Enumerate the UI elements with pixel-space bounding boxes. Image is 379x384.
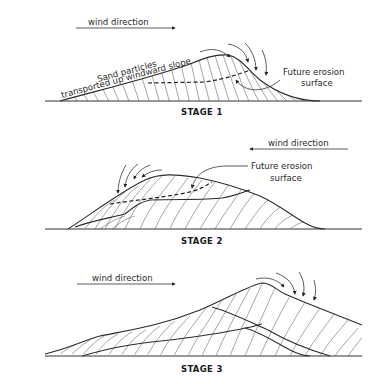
stage-3-cross-bedding	[58, 284, 362, 356]
dune-stages-diagram: wind direction Sand particles transporte…	[0, 0, 379, 384]
stage-2: wind direction Future erosion surface ST…	[45, 138, 362, 246]
stage-1-label: STAGE 1	[181, 107, 223, 117]
stage-2-erosion-leader	[192, 166, 248, 188]
stage-1-wind-label: wind direction	[88, 17, 149, 27]
flow-arrow-icon	[256, 278, 284, 287]
flow-arrow-icon	[299, 272, 304, 296]
stage-3-label: STAGE 3	[181, 364, 223, 374]
stage-3-bedding-surface-middle	[245, 328, 310, 356]
flow-arrow-icon	[314, 280, 316, 300]
flow-arrow-icon	[118, 165, 126, 193]
flow-arrow-icon	[262, 50, 266, 75]
stage-2-bedding-surface	[75, 190, 250, 227]
stage-1-annotation-erosion: Future erosion	[283, 67, 345, 77]
stage-1-annotation-surface: surface	[301, 78, 333, 88]
stage-2-annotation-surface: surface	[270, 173, 302, 183]
stage-3-dune-outline	[45, 283, 362, 354]
stage-1: wind direction Sand particles transporte…	[45, 17, 362, 117]
stage-2-wind-label: wind direction	[268, 138, 329, 148]
stage-3-wind-label: wind direction	[92, 273, 153, 283]
stage-2-label: STAGE 2	[181, 236, 223, 246]
stage-3: wind direction STAGE 3	[45, 272, 362, 374]
stage-2-annotation-erosion: Future erosion	[251, 161, 313, 171]
flow-arrow-icon	[245, 43, 256, 70]
